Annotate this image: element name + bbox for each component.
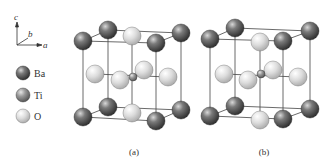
axis-label-c: c [14,12,18,22]
legend-label-o: O [34,111,41,122]
ba-atom [201,30,219,48]
ba-atom [147,34,165,52]
ba-atom [274,32,292,50]
unit-cell-b [201,19,319,129]
legend-label-ba: Ba [34,68,46,79]
ba-atom [172,24,190,42]
legend: Ba Ti O [16,66,46,123]
ba-atom [274,110,292,128]
ba-atom [99,98,117,116]
ba-atom [301,100,319,118]
ti-atom [257,70,265,78]
o-atom [123,104,141,122]
o-atom [135,61,153,79]
caption-b: (b) [259,147,270,157]
ba-atom [74,32,92,50]
ba-atom [201,107,219,125]
ba-atom [99,21,117,39]
ba-atom [147,112,165,130]
o-atom [123,27,141,45]
legend-label-ti: Ti [34,90,43,101]
o-atom [264,61,282,79]
legend-ba-icon [16,66,30,80]
ba-atom [301,22,319,40]
legend-ti-icon [16,88,30,102]
o-atom [159,68,177,86]
ti-atom [129,73,137,81]
ba-atom [226,19,244,37]
caption-a: (a) [129,147,139,157]
ba-atom [172,101,190,119]
o-atom [111,71,129,89]
ba-atom [74,108,92,126]
axis-label-b: b [28,29,33,39]
legend-o-icon [16,109,30,123]
axis-label-a: a [43,40,48,50]
o-atom [289,68,307,86]
o-atom [251,111,269,129]
o-atom [239,71,257,89]
ba-atom [226,97,244,115]
o-atom [215,65,233,83]
unit-cell-a [74,21,190,130]
crystal-structure-figure: c b a Ba Ti O [0,0,330,166]
o-atom [86,65,104,83]
o-atom [251,33,269,51]
